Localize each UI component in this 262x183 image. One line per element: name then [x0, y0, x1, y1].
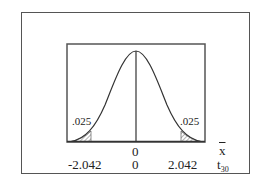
left-tail-area-label: .025 [72, 115, 91, 128]
xbar-axis-label: x [219, 144, 226, 157]
t-left-critical-value: -2.042 [68, 158, 102, 171]
right-tail-area-label: .025 [180, 115, 199, 128]
t-axis-label: t30 [217, 158, 229, 173]
t-right-critical-value: 2.042 [168, 158, 197, 171]
t-center-tick: 0 [132, 158, 139, 171]
df-subscript: 30 [221, 165, 229, 174]
